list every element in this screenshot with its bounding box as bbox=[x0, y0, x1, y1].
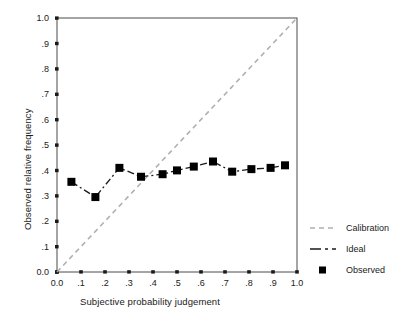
observed-data-point bbox=[91, 193, 99, 201]
observed-data-point bbox=[267, 164, 275, 172]
y-tick-mark bbox=[55, 93, 59, 96]
observed-data-point bbox=[247, 165, 255, 173]
x-tick-mark bbox=[271, 270, 275, 273]
y-tick-label: .6 bbox=[41, 115, 49, 125]
x-tick-mark bbox=[151, 270, 155, 273]
y-tick-label: .1 bbox=[41, 242, 49, 252]
x-tick-label: .1 bbox=[77, 278, 85, 288]
x-tick-mark bbox=[103, 270, 107, 273]
x-tick-label: .7 bbox=[221, 278, 229, 288]
x-axis-title: Subjective probability judgement bbox=[0, 296, 300, 307]
y-tick-label: 1.0 bbox=[36, 13, 49, 23]
x-tick-mark bbox=[223, 270, 227, 273]
x-axis-ticks: 0.0.1.2.3.4.5.6.7.8.91.0 bbox=[51, 270, 304, 288]
chart-legend: CalibrationIdealObserved bbox=[310, 223, 389, 275]
y-tick-mark bbox=[55, 42, 59, 45]
y-tick-mark bbox=[55, 67, 59, 70]
y-tick-mark bbox=[55, 16, 59, 19]
observed-data-point bbox=[190, 163, 198, 171]
x-tick-mark bbox=[199, 270, 203, 273]
x-tick-mark bbox=[295, 270, 299, 273]
x-tick-label: .8 bbox=[245, 278, 253, 288]
x-tick-label: 1.0 bbox=[291, 278, 304, 288]
y-tick-label: .2 bbox=[41, 216, 49, 226]
series-observed bbox=[67, 158, 289, 202]
y-axis-ticks: 0.0.1.2.3.4.5.6.7.8.91.0 bbox=[36, 13, 58, 277]
x-tick-label: .9 bbox=[269, 278, 277, 288]
observed-data-point bbox=[228, 168, 236, 176]
x-tick-label: .6 bbox=[197, 278, 205, 288]
x-tick-mark bbox=[247, 270, 251, 273]
observed-data-point bbox=[209, 158, 217, 166]
observed-data-point bbox=[137, 173, 145, 181]
y-tick-mark bbox=[55, 245, 59, 248]
legend-swatch-observed bbox=[319, 267, 326, 274]
series-calibration bbox=[57, 18, 297, 272]
legend-label: Calibration bbox=[346, 223, 389, 233]
legend-label: Ideal bbox=[346, 244, 366, 254]
observed-data-point bbox=[115, 164, 123, 172]
x-tick-mark bbox=[175, 270, 179, 273]
y-tick-label: .5 bbox=[41, 140, 49, 150]
x-tick-label: .3 bbox=[125, 278, 133, 288]
y-tick-label: .4 bbox=[41, 166, 49, 176]
y-tick-mark bbox=[55, 143, 59, 146]
y-tick-mark bbox=[55, 194, 59, 197]
observed-data-point bbox=[67, 178, 75, 186]
y-tick-mark bbox=[55, 169, 59, 172]
calibration-line bbox=[57, 18, 297, 272]
x-tick-mark bbox=[127, 270, 131, 273]
y-tick-label: .9 bbox=[41, 39, 49, 49]
legend-label: Observed bbox=[346, 265, 385, 275]
y-tick-label: .8 bbox=[41, 64, 49, 74]
y-axis-title: Observed relative frequency bbox=[22, 108, 33, 230]
observed-data-point bbox=[173, 166, 181, 174]
observed-data-point bbox=[159, 170, 167, 178]
y-tick-mark bbox=[55, 220, 59, 223]
x-tick-label: 0.0 bbox=[51, 278, 64, 288]
y-tick-label: .7 bbox=[41, 89, 49, 99]
calibration-chart-figure: 0.0.1.2.3.4.5.6.7.8.91.0 0.0.1.2.3.4.5.6… bbox=[0, 0, 404, 322]
y-tick-mark bbox=[55, 118, 59, 121]
y-tick-label: .3 bbox=[41, 191, 49, 201]
x-tick-label: .4 bbox=[149, 278, 157, 288]
observed-data-point bbox=[281, 161, 289, 169]
x-tick-label: .5 bbox=[173, 278, 181, 288]
y-tick-label: 0.0 bbox=[36, 267, 49, 277]
x-tick-label: .2 bbox=[101, 278, 109, 288]
chart-svg: 0.0.1.2.3.4.5.6.7.8.91.0 0.0.1.2.3.4.5.6… bbox=[0, 0, 404, 322]
x-tick-mark bbox=[79, 270, 83, 273]
